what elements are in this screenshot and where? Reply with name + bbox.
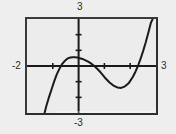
x-max-label: 3 <box>161 60 167 71</box>
plot-area <box>27 19 156 113</box>
figure-canvas: 3 -3 -2 3 <box>0 0 176 134</box>
calculator-screen <box>25 17 158 115</box>
y-min-label: -3 <box>74 117 83 128</box>
function-plot <box>27 19 156 113</box>
x-min-label: -2 <box>12 60 21 71</box>
y-max-label: 3 <box>77 1 83 12</box>
